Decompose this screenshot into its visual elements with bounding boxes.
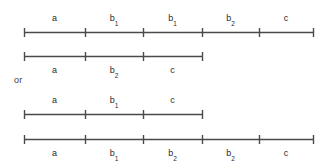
number-line-row-3 bbox=[25, 110, 203, 119]
segment-label-subscript: 1 bbox=[115, 102, 119, 109]
segment-label: c bbox=[170, 65, 175, 75]
segment-label: a bbox=[52, 65, 57, 75]
segment-label-base: a bbox=[52, 95, 57, 105]
segment-label-subscript: 2 bbox=[173, 155, 177, 162]
segment-label-subscript: 2 bbox=[231, 20, 235, 27]
segment-label-base: c bbox=[170, 95, 175, 105]
segment-label-base: a bbox=[52, 13, 57, 23]
segment-label: b2 bbox=[110, 65, 119, 75]
connector-or-text: or bbox=[14, 75, 22, 85]
segment-label-subscript: 1 bbox=[115, 155, 119, 162]
segment-label-base: c bbox=[284, 13, 289, 23]
segment-label-subscript: 1 bbox=[173, 20, 177, 27]
segment-label: b1 bbox=[110, 13, 119, 23]
segment-label-base: a bbox=[52, 65, 57, 75]
segment-label-base: c bbox=[170, 65, 175, 75]
number-line-row-1 bbox=[25, 28, 314, 37]
interval-diagram-canvas bbox=[0, 0, 327, 168]
number-line-row-4 bbox=[25, 135, 314, 144]
segment-label: b1 bbox=[168, 13, 177, 23]
segment-label-subscript: 2 bbox=[231, 155, 235, 162]
number-line-row-2 bbox=[25, 52, 203, 61]
segment-label: b2 bbox=[226, 148, 235, 158]
interval-diagram-figure: ab1b1b2cab2cab1cab1b2b2c or bbox=[0, 0, 327, 168]
segment-label: b1 bbox=[110, 148, 119, 158]
segment-label: b1 bbox=[110, 95, 119, 105]
segment-label: a bbox=[52, 148, 57, 158]
segment-label-base: c bbox=[284, 148, 289, 158]
segment-label-base: a bbox=[52, 148, 57, 158]
segment-label: b2 bbox=[226, 13, 235, 23]
segment-label-subscript: 1 bbox=[115, 20, 119, 27]
segment-label: a bbox=[52, 13, 57, 23]
segment-label: b2 bbox=[168, 148, 177, 158]
segment-label: c bbox=[284, 148, 289, 158]
segment-label: a bbox=[52, 95, 57, 105]
segment-label: c bbox=[284, 13, 289, 23]
segment-label-subscript: 2 bbox=[115, 72, 119, 79]
segment-label: c bbox=[170, 95, 175, 105]
